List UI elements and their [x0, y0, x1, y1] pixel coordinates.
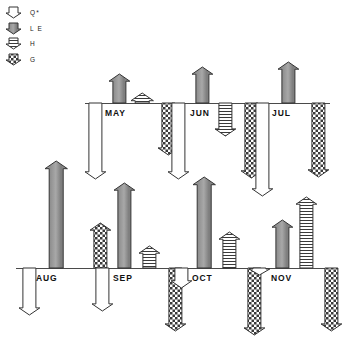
flux-arrow-nov-G	[321, 267, 342, 332]
month-label-nov: NOV	[271, 273, 292, 283]
flux-arrow-nov-LE	[272, 219, 293, 269]
flux-arrow-nov-H	[296, 196, 317, 269]
flux-arrow-nov-G	[321, 267, 342, 332]
flux-arrow-nov-Qstar	[249, 267, 270, 276]
flux-arrow-nov-LE	[272, 219, 293, 269]
flux-arrow-nov-Qstar	[249, 267, 270, 276]
flux-arrow-nov-H	[296, 196, 317, 269]
